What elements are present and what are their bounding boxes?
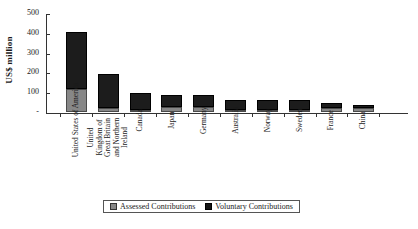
y-axis-tick-label: 300 (27, 47, 39, 59)
legend-entry[interactable]: Assessed Contributions (110, 202, 195, 211)
chart-figure: US$ million -100200300400500 United Stat… (0, 0, 418, 229)
legend-entry-label: Voluntary Contributions (215, 202, 292, 211)
x-axis-line (46, 113, 408, 114)
y-axis-tick-label: 400 (27, 27, 39, 39)
x-axis-category-label-text: China (359, 100, 368, 140)
y-axis-tick-label: 200 (27, 66, 39, 78)
x-axis-category-label-text: Norway (263, 100, 272, 140)
bar-segment-assessed[interactable] (98, 108, 119, 112)
x-axis-category-label-text: United States of America (72, 83, 81, 157)
y-axis-tick-label: - (36, 106, 39, 118)
x-axis-category-label-text: Japan (168, 100, 177, 140)
y-axis-tick-mark (46, 34, 50, 35)
voluntary-swatch (205, 203, 212, 210)
y-axis-tick-mark (46, 73, 50, 74)
assessed-swatch (110, 203, 117, 210)
x-axis-category-labels: United States of AmericaUnited Kingdom o… (46, 116, 408, 198)
y-axis-tick-mark (46, 14, 50, 15)
chart-legend: Assessed ContributionsVoluntary Contribu… (103, 200, 300, 213)
x-axis-category-label-text: Germany (200, 100, 209, 140)
y-axis-tick-label: 500 (27, 7, 39, 19)
bar-segment-voluntary[interactable] (98, 74, 119, 108)
y-axis-title: US$ million (0, 0, 18, 120)
y-axis-line (46, 14, 47, 113)
bar-group[interactable] (98, 74, 119, 112)
x-axis-category-label-text: Australia (231, 100, 240, 140)
y-axis-tick-label: 100 (27, 86, 39, 98)
y-axis-title-text: US$ million (4, 36, 14, 83)
x-axis-category-label-text: France (327, 100, 336, 140)
legend-entry[interactable]: Voluntary Contributions (205, 202, 292, 211)
x-axis-category-label-text: Sweden (295, 100, 304, 140)
x-axis-category-label: China (343, 116, 383, 198)
y-axis-tick-mark (46, 93, 50, 94)
y-axis-tick-mark (46, 113, 50, 114)
legend-entry-label: Assessed Contributions (120, 202, 195, 211)
plot-area: -100200300400500 (46, 14, 408, 113)
x-axis-category-label-text: Canada (136, 100, 145, 140)
y-axis-tick-mark (46, 54, 50, 55)
bar-segment-voluntary[interactable] (66, 32, 87, 89)
